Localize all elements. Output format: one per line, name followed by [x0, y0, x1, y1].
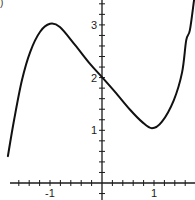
function-graph: ) -11123 — [0, 0, 195, 200]
y-tick-label: 2 — [91, 72, 97, 84]
axes — [10, 0, 195, 200]
panel-label: ) — [0, 0, 3, 8]
y-tick-label: 3 — [91, 19, 97, 31]
y-tick-label: 1 — [91, 124, 97, 136]
x-tick-label: 1 — [151, 187, 157, 199]
function-curve — [8, 0, 194, 156]
x-tick-label: -1 — [45, 187, 55, 199]
